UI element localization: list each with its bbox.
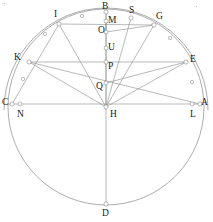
point-label-M: M [108, 16, 117, 26]
node-S [129, 16, 133, 20]
node-I [57, 22, 61, 26]
point-label-A: A [201, 98, 208, 108]
arc-tick [21, 77, 24, 80]
point-label-E: E [190, 55, 196, 65]
segment-H-I [59, 24, 106, 107]
node-K [27, 60, 31, 64]
point-label-H: H [110, 110, 117, 120]
segment-O-G [106, 25, 154, 32]
point-label-N: N [17, 110, 24, 120]
point-label-Q: Q [96, 82, 103, 92]
node-C [10, 102, 14, 106]
geometry-figure: A B C D E G H I K L M N O P Q S U [0, 0, 213, 222]
arc-tick [168, 36, 171, 39]
segment-H-E [106, 62, 186, 107]
point-label-U: U [108, 43, 115, 53]
page-speck [4, 3, 5, 4]
node-H [104, 105, 108, 109]
node-L [190, 102, 194, 106]
point-label-I: I [54, 10, 57, 20]
point-label-B: B [102, 2, 109, 12]
page-speck [196, 6, 197, 7]
point-label-G: G [156, 12, 163, 22]
arc-tick [80, 14, 83, 17]
point-label-O: O [98, 26, 105, 36]
point-label-L: L [190, 110, 196, 120]
node-E [184, 60, 188, 64]
node-N [18, 102, 22, 106]
arc-tick [190, 80, 193, 83]
point-label-K: K [14, 53, 21, 63]
node-G [152, 23, 156, 27]
point-label-C: C [2, 98, 9, 108]
point-label-P: P [108, 62, 113, 72]
node-Q [104, 81, 108, 85]
geometry-figure-canvas [0, 0, 213, 222]
segment-I-G [59, 24, 154, 25]
segment-H-K [29, 62, 106, 107]
arc-tick [43, 32, 46, 35]
point-label-S: S [129, 6, 134, 16]
node-D [104, 202, 108, 206]
point-label-D: D [102, 209, 109, 219]
